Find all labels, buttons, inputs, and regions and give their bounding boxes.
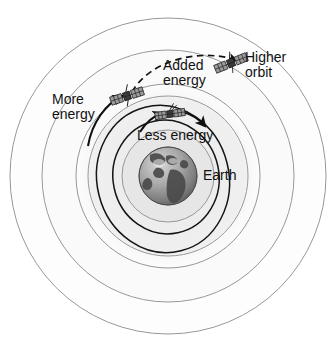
label-added-energy: Added energy — [163, 58, 206, 88]
label-higher-orbit: Higher orbit — [245, 50, 286, 80]
label-earth: Earth — [203, 168, 236, 182]
figure-canvas: More energy Added energy Less energy Hig… — [0, 0, 335, 347]
label-less-energy: Less energy — [137, 128, 213, 142]
label-more-energy: More energy — [52, 92, 95, 122]
earth-globe-icon — [139, 147, 197, 205]
